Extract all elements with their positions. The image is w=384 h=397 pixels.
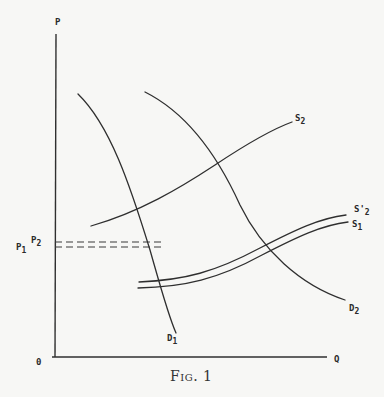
s1-supply-curve — [138, 222, 348, 288]
d2-demand-curve — [145, 92, 345, 300]
figure-1: P Q 0 P1 P2 S2 S'2 S1 D2 D1 Fig. 1 — [0, 0, 384, 397]
s2-label: S2 — [295, 114, 305, 126]
d1-label: D1 — [167, 334, 177, 346]
supply-demand-diagram — [0, 0, 384, 397]
s2-supply-curve — [91, 122, 292, 226]
figure-caption: Fig. 1 — [170, 368, 212, 384]
p2-label: P2 — [31, 236, 41, 248]
p-axis — [55, 34, 56, 357]
s1-label: S1 — [352, 220, 362, 232]
q-axis-label: Q — [334, 355, 339, 364]
origin-label: 0 — [36, 358, 41, 367]
p1-label: P1 — [16, 243, 26, 255]
s-prime-2-label: S'2 — [354, 205, 370, 217]
d2-label: D2 — [349, 304, 359, 316]
s-prime-2-supply-curve — [139, 215, 346, 282]
p-axis-label: P — [55, 18, 60, 27]
